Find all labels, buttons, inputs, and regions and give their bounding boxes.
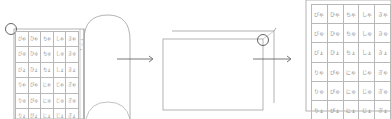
table-row: りゅ ぴゅ にゅ じゅ ぎゅ [16,93,79,108]
table-cell: にょ [41,109,54,119]
table-cell: ぎゃ [375,62,391,81]
table-cell: りゅ [16,93,29,108]
fold-tick [274,28,276,31]
table-cell: にゅ [41,93,54,108]
diagram-canvas: びゃ ひゃ ちゃ しゃ きゃ びゅ ひゅ ちゅ しゅ きゅ びょ ひょ ちょ し… [0,0,391,119]
table-row: びゅ ひゅ ちゅ しゅ きゅ [16,47,79,62]
table-cell: きゃ [375,5,391,24]
table-cell: ひゅ [327,24,343,43]
table-row: びょ ひょ ちょ しょ きょ [312,43,391,62]
table-cell: じゃ [53,78,66,93]
table-cell: びょ [312,43,328,62]
table-cell: じゃ [359,62,375,81]
table-cell: ちょ [343,43,359,62]
table-cell: しょ [359,43,375,62]
table-row: びょ ひょ ちょ しょ きょ [16,62,79,77]
table-cell: りょ [16,109,29,119]
booklet-flap-curve [86,102,130,119]
table-cell: りゅ [312,81,328,100]
table-cell: にゃ [41,78,54,93]
table-cell: びゃ [16,32,29,47]
spine-side-text: ↑ ー ↓ [78,38,84,51]
table-cell: ぴゅ [327,81,343,100]
folded-sheet-front [163,39,263,110]
table-row: びゃ ひゃ ちゃ しゃ きゃ [16,32,79,47]
table-cell: じゅ [359,81,375,100]
table-cell: りゃ [16,78,29,93]
table-cell: しゅ [359,24,375,43]
table-cell: きゅ [66,47,79,62]
table-cell: ぴゃ [327,62,343,81]
table-cell: ぴゃ [28,78,41,93]
table-cell: じょ [53,109,66,119]
table-row: りゅ ぴゅ にゅ じゅ ぎゅ [312,81,391,100]
table-row: りゃ ぴゃ にゃ じゃ ぎゃ [312,62,391,81]
table-cell: にゃ [343,62,359,81]
table-cell: ひゃ [28,32,41,47]
table-row: りょ ぴょ にょ じょ ぎょ [312,101,391,119]
table-cell: ちゅ [343,24,359,43]
table-cell: ちょ [41,62,54,77]
table-cell: ひょ [327,43,343,62]
table-cell: きゅ [375,24,391,43]
table-row: びゃ ひゃ ちゃ しゃ きゃ [312,5,391,24]
table-cell: びゅ [312,24,328,43]
table-cell: ぎゅ [66,93,79,108]
table-cell: りょ [312,101,328,119]
table-cell: しゃ [359,5,375,24]
table-cell: りゃ [312,62,328,81]
table-cell: ひゅ [28,47,41,62]
table-cell: ちゃ [343,5,359,24]
final-kana-table: びゃ ひゃ ちゃ しゃ きゃ びゅ ひゅ ちゅ しゅ きゅ びょ ひょ ちょ し… [311,4,391,119]
table-cell: しゃ [53,32,66,47]
table-cell: びゃ [312,5,328,24]
table-row: りゃ ぴゃ にゃ じゃ ぎゃ [16,78,79,93]
folded-sheet-back [172,31,274,103]
table-cell: ぎょ [375,101,391,119]
table-cell: ひゃ [327,5,343,24]
table-cell: ぴゅ [28,93,41,108]
table-cell: にょ [343,101,359,119]
table-row: びゅ ひゅ ちゅ しゅ きゅ [312,24,391,43]
table-cell: にゅ [343,81,359,100]
table-cell: ぴょ [28,109,41,119]
table-cell: ぎゃ [66,78,79,93]
booklet-right-flap [84,15,130,119]
table-cell: きょ [66,62,79,77]
table-row: りょ ぴょ にょ じょ ぎょ [16,109,79,119]
table-cell: きゃ [66,32,79,47]
booklet-kana-table: びゃ ひゃ ちゃ しゃ きゃ びゅ ひゅ ちゅ しゅ きゅ びょ ひょ ちょ し… [15,31,79,119]
table-cell: じゅ [53,93,66,108]
table-cell: じょ [359,101,375,119]
table-cell: ぎゅ [375,81,391,100]
table-cell: ひょ [28,62,41,77]
table-cell: しょ [53,62,66,77]
table-cell: ぎょ [66,109,79,119]
table-cell: びゅ [16,47,29,62]
table-cell: きょ [375,43,391,62]
table-cell: びょ [16,62,29,77]
table-cell: ぴょ [327,101,343,119]
table-cell: ちゅ [41,47,54,62]
table-cell: しゅ [53,47,66,62]
table-cell: ちゃ [41,32,54,47]
